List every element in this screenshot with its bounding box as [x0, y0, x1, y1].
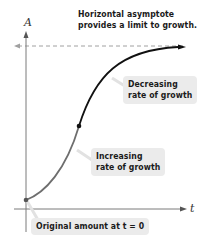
- asymptote-annotation: Horizontal asymptote provides a limit to…: [78, 9, 197, 31]
- original-amount-annotation: Original amount at t = 0: [31, 218, 149, 235]
- y-axis-label: A: [24, 16, 32, 29]
- curve-arrow: [178, 45, 186, 50]
- x-axis-label: t: [190, 202, 194, 215]
- increasing-rate-annotation: Increasing rate of growth: [91, 148, 165, 176]
- asymptote-annotation-line1: Horizontal asymptote: [78, 9, 197, 20]
- leader-increasing: [77, 150, 92, 160]
- asymptote-annotation-line2: provides a limit to growth.: [78, 20, 197, 31]
- growth-diagram: [0, 0, 199, 250]
- increasing-line1: Increasing: [96, 151, 160, 162]
- inflection-point: [77, 124, 82, 129]
- curve-increasing: [26, 126, 79, 200]
- decreasing-rate-annotation: Decreasing rate of growth: [123, 76, 197, 104]
- x-axis: [14, 207, 187, 212]
- decreasing-line1: Decreasing: [128, 79, 192, 90]
- origin-point: [24, 198, 29, 203]
- horizontal-asymptote: [14, 44, 185, 49]
- increasing-line2: rate of growth: [96, 162, 160, 173]
- decreasing-line2: rate of growth: [128, 90, 192, 101]
